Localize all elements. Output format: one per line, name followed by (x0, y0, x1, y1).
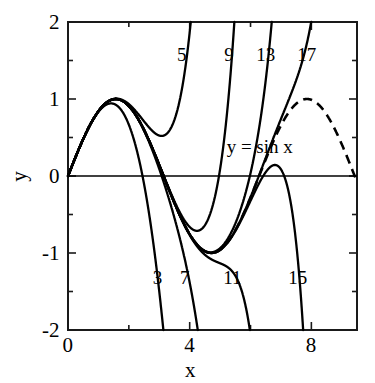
sine-annotation: y = sin x (227, 137, 293, 156)
curve-label-5: 5 (177, 45, 187, 64)
y-tick-label-neg1: -1 (42, 243, 60, 264)
curve-label-15: 15 (288, 268, 307, 287)
taylor-series-figure: 2 1 0 -1 -2 0 4 8 x y y = sin x 3 5 7 9 … (0, 0, 375, 383)
curve-label-17: 17 (297, 45, 316, 64)
y-tick-label-1: 1 (49, 89, 60, 110)
x-tick-label-0: 0 (63, 335, 74, 356)
y-tick-label-neg2: -2 (42, 320, 60, 341)
curve-label-11: 11 (223, 268, 241, 287)
curve-label-7: 7 (180, 268, 190, 287)
x-tick-label-4: 4 (184, 335, 195, 356)
curve-label-3: 3 (153, 268, 163, 287)
x-tick-label-8: 8 (306, 335, 317, 356)
y-tick-label-2: 2 (49, 12, 60, 33)
curve-label-13: 13 (256, 45, 275, 64)
curve-label-9: 9 (224, 45, 234, 64)
x-axis-title: x (185, 360, 196, 381)
y-tick-label-0: 0 (49, 166, 60, 187)
y-axis-title: y (9, 171, 30, 182)
